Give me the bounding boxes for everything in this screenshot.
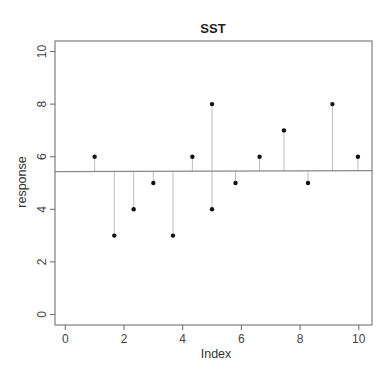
- y-tick-label: 0: [35, 311, 49, 318]
- data-point: [210, 102, 214, 106]
- data-point: [257, 155, 261, 159]
- x-tick-label: 0: [62, 332, 69, 346]
- data-points: [92, 102, 360, 238]
- data-point: [356, 155, 360, 159]
- data-point: [131, 207, 135, 211]
- y-tick-label: 8: [35, 100, 49, 107]
- data-point: [112, 233, 116, 237]
- data-point: [306, 181, 310, 185]
- y-tick-label: 2: [35, 258, 49, 265]
- y-tick-label: 6: [35, 153, 49, 160]
- y-tick-label: 4: [35, 206, 49, 213]
- x-axis-label: Index: [201, 347, 232, 361]
- y-tick-label: 10: [35, 45, 49, 59]
- data-point: [233, 181, 237, 185]
- x-axis: 0246810: [62, 325, 366, 346]
- x-tick-label: 8: [297, 332, 304, 346]
- residual-stems: [95, 104, 358, 235]
- x-tick-label: 6: [238, 332, 245, 346]
- data-point: [190, 155, 194, 159]
- chart-title: SST: [200, 21, 225, 36]
- data-point: [330, 102, 334, 106]
- sst-chart: SST 0246810 0246810 Index response: [0, 0, 390, 377]
- data-point: [171, 233, 175, 237]
- x-tick-label: 2: [121, 332, 128, 346]
- data-point: [92, 155, 96, 159]
- x-tick-label: 4: [179, 332, 186, 346]
- x-tick-label: 10: [352, 332, 366, 346]
- y-axis-label: response: [15, 156, 29, 207]
- data-point: [210, 207, 214, 211]
- mean-line: [55, 171, 372, 172]
- data-point: [282, 128, 286, 132]
- y-axis: 0246810: [35, 45, 55, 318]
- data-point: [151, 181, 155, 185]
- plot-frame: [55, 41, 372, 325]
